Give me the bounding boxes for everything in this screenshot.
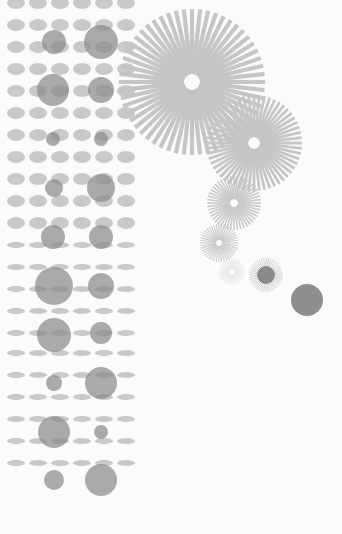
grid-ellipse bbox=[117, 264, 135, 270]
grid-ellipse bbox=[73, 129, 91, 141]
grid-ellipse bbox=[7, 19, 25, 31]
grid-ellipse bbox=[29, 195, 47, 207]
decorative-artwork bbox=[0, 0, 342, 534]
overlay-circle bbox=[46, 375, 62, 391]
grid-ellipse bbox=[73, 394, 91, 400]
grid-ellipse bbox=[7, 173, 25, 185]
grid-ellipse bbox=[117, 151, 135, 163]
grid-ellipse bbox=[29, 372, 47, 378]
grid-ellipse bbox=[117, 242, 135, 248]
overlay-circle bbox=[90, 322, 112, 344]
grid-ellipse bbox=[117, 438, 135, 444]
ellipse-dot-grid bbox=[7, 0, 135, 466]
grid-ellipse bbox=[29, 217, 47, 229]
grid-ellipse bbox=[73, 217, 91, 229]
solid-dot bbox=[291, 284, 323, 316]
grid-ellipse bbox=[51, 394, 69, 400]
grid-ellipse bbox=[7, 372, 25, 378]
grid-ellipse bbox=[73, 107, 91, 119]
grid-ellipse bbox=[117, 0, 135, 9]
grid-ellipse bbox=[7, 242, 25, 248]
grid-ellipse bbox=[117, 173, 135, 185]
grid-ellipse bbox=[117, 460, 135, 466]
grid-ellipse bbox=[29, 19, 47, 31]
grid-ellipse bbox=[29, 394, 47, 400]
grid-ellipse bbox=[7, 0, 25, 9]
grid-ellipse bbox=[95, 107, 113, 119]
grid-ellipse bbox=[29, 63, 47, 75]
grid-ellipse bbox=[95, 264, 113, 270]
grid-ellipse bbox=[7, 41, 25, 53]
grid-ellipse bbox=[117, 308, 135, 314]
grid-ellipse bbox=[51, 19, 69, 31]
grid-ellipse bbox=[7, 264, 25, 270]
grid-ellipse bbox=[7, 151, 25, 163]
overlay-circle bbox=[85, 367, 117, 399]
grid-ellipse bbox=[29, 460, 47, 466]
grid-ellipse bbox=[95, 438, 113, 444]
grid-ellipse bbox=[29, 264, 47, 270]
grid-ellipse bbox=[73, 330, 91, 336]
overlay-circle bbox=[37, 74, 69, 106]
sunburst bbox=[200, 224, 238, 262]
grid-ellipse bbox=[95, 63, 113, 75]
grid-ellipse bbox=[7, 308, 25, 314]
grid-ellipse bbox=[7, 129, 25, 141]
grid-ellipse bbox=[29, 173, 47, 185]
grid-ellipse bbox=[117, 416, 135, 422]
sunburst-core bbox=[257, 266, 275, 284]
overlay-circle bbox=[87, 174, 115, 202]
grid-ellipse bbox=[73, 438, 91, 444]
overlay-circle bbox=[84, 25, 118, 59]
grid-ellipse bbox=[7, 330, 25, 336]
grid-ellipse bbox=[51, 460, 69, 466]
grid-ellipse bbox=[73, 19, 91, 31]
overlay-circle bbox=[45, 179, 63, 197]
grid-ellipse bbox=[7, 217, 25, 229]
grid-ellipse bbox=[7, 438, 25, 444]
overlay-circle bbox=[37, 318, 71, 352]
overlay-circle bbox=[88, 77, 114, 103]
grid-ellipse bbox=[7, 195, 25, 207]
grid-ellipse bbox=[95, 416, 113, 422]
overlay-circle bbox=[89, 225, 113, 249]
grid-ellipse bbox=[7, 63, 25, 75]
grid-ellipse bbox=[73, 416, 91, 422]
grid-ellipse bbox=[73, 242, 91, 248]
sunburst-group bbox=[119, 9, 302, 292]
sunburst bbox=[207, 176, 261, 230]
grid-ellipse bbox=[117, 217, 135, 229]
overlay-circle bbox=[85, 464, 117, 496]
grid-ellipse bbox=[73, 264, 91, 270]
solid-dots bbox=[291, 284, 323, 316]
grid-ellipse bbox=[29, 308, 47, 314]
grid-ellipse bbox=[117, 19, 135, 31]
overlay-circle bbox=[46, 132, 60, 146]
grid-ellipse bbox=[29, 107, 47, 119]
overlay-circle bbox=[38, 416, 70, 448]
grid-ellipse bbox=[7, 460, 25, 466]
grid-ellipse bbox=[117, 372, 135, 378]
grid-ellipse bbox=[73, 0, 91, 9]
grid-ellipse bbox=[117, 129, 135, 141]
grid-ellipse bbox=[51, 151, 69, 163]
grid-ellipse bbox=[95, 151, 113, 163]
grid-ellipse bbox=[51, 0, 69, 9]
sunburst bbox=[206, 95, 302, 191]
grid-ellipse bbox=[51, 308, 69, 314]
grid-ellipse bbox=[95, 0, 113, 9]
overlay-circle bbox=[44, 470, 64, 490]
grid-ellipse bbox=[7, 85, 25, 97]
grid-ellipse bbox=[95, 350, 113, 356]
grid-ellipse bbox=[51, 107, 69, 119]
grid-ellipse bbox=[117, 350, 135, 356]
grid-ellipse bbox=[73, 195, 91, 207]
grid-ellipse bbox=[51, 63, 69, 75]
grid-ellipse bbox=[117, 394, 135, 400]
grid-ellipse bbox=[95, 308, 113, 314]
grid-ellipse bbox=[29, 151, 47, 163]
grid-ellipse bbox=[73, 151, 91, 163]
grid-ellipse bbox=[7, 394, 25, 400]
grid-ellipse bbox=[73, 308, 91, 314]
grid-ellipse bbox=[7, 416, 25, 422]
